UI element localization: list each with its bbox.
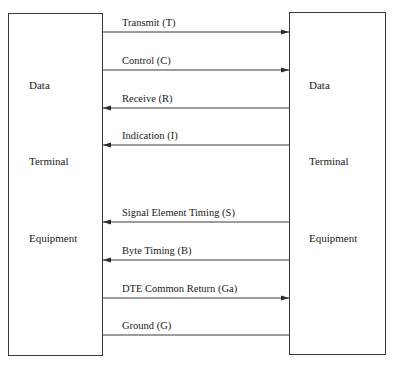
- right-box-label-equipment: Equipment: [309, 232, 357, 244]
- left-box-label-equipment: Equipment: [29, 232, 77, 244]
- left-box-label-data: Data: [29, 79, 50, 91]
- signal-label-dte-common-return: DTE Common Return (Ga): [122, 283, 237, 295]
- signal-label-ground: Ground (G): [122, 320, 171, 332]
- signal-label-control: Control (C): [122, 55, 171, 67]
- right-data-terminal-equipment-box: [289, 12, 386, 355]
- signal-label-transmit: Transmit (T): [122, 17, 176, 29]
- right-box-label-data: Data: [309, 79, 330, 91]
- left-box-label-terminal: Terminal: [29, 155, 69, 167]
- right-box-label-terminal: Terminal: [309, 155, 349, 167]
- signal-label-byte-timing: Byte Timing (B): [122, 245, 191, 257]
- signal-label-receive: Receive (R): [122, 93, 172, 105]
- signal-label-indication: Indication (I): [122, 130, 178, 142]
- left-data-terminal-equipment-box: [8, 13, 103, 356]
- signal-label-signal-element-timing: Signal Element Timing (S): [122, 207, 235, 219]
